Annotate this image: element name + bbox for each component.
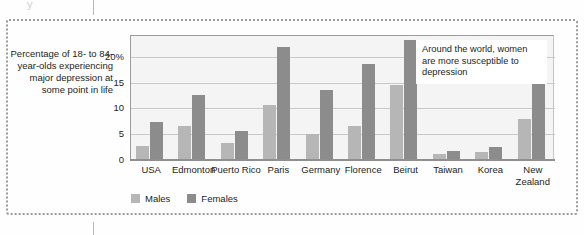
x-axis-baseline xyxy=(130,159,555,161)
bar-group xyxy=(131,36,173,160)
bar-group xyxy=(343,36,385,160)
legend-swatch-females xyxy=(187,194,196,203)
bar-males-edmonton xyxy=(178,126,191,160)
crop-tick-bottom xyxy=(93,222,94,235)
bar-females-edmonton xyxy=(192,95,205,160)
y-axis-tick-label: 0 xyxy=(119,154,124,165)
bar-group xyxy=(258,36,300,160)
depression-bar-chart-figure: y Percentage of 18- to 84-year-olds expe… xyxy=(0,0,584,235)
chart-legend: MalesFemales xyxy=(131,193,238,204)
bar-males-usa xyxy=(136,146,149,160)
bar-group xyxy=(301,36,343,160)
bar-females-new-zealand xyxy=(532,79,545,160)
bar-group xyxy=(173,36,215,160)
bar-males-new-zealand xyxy=(518,119,531,160)
legend-item-females: Females xyxy=(187,193,237,204)
chart-annotation: Around the world, women are more suscept… xyxy=(416,40,547,84)
bar-males-puerto-rico xyxy=(221,143,234,160)
crop-tick-top xyxy=(93,0,94,15)
bar-males-beirut xyxy=(390,85,403,160)
y-axis-tick-label: 15 xyxy=(113,76,124,87)
y-axis-tick-label: 10 xyxy=(113,102,124,113)
bar-males-florence xyxy=(348,126,361,160)
x-axis-label-new-zealand: New Zealand xyxy=(506,164,560,187)
bar-females-puerto-rico xyxy=(235,131,248,160)
legend-item-males: Males xyxy=(131,193,170,204)
crop-glyph: y xyxy=(27,0,34,10)
bar-females-korea xyxy=(489,147,502,160)
bar-group xyxy=(216,36,258,160)
legend-swatch-males xyxy=(131,194,140,203)
bar-females-paris xyxy=(277,47,290,160)
bar-females-germany xyxy=(320,90,333,160)
y-axis-tick-label: 5 xyxy=(119,128,124,139)
legend-label-males: Males xyxy=(145,193,170,204)
bar-females-usa xyxy=(150,122,163,160)
chart-caption: Percentage of 18- to 84-year-olds experi… xyxy=(10,48,113,96)
bar-females-florence xyxy=(362,64,375,160)
bar-males-paris xyxy=(263,105,276,160)
y-axis-tick-label: 20% xyxy=(105,50,124,61)
bar-males-germany xyxy=(306,134,319,160)
legend-label-females: Females xyxy=(201,193,237,204)
x-axis-labels: USAEdmontonPuerto RicoParisGermanyFloren… xyxy=(130,164,554,192)
